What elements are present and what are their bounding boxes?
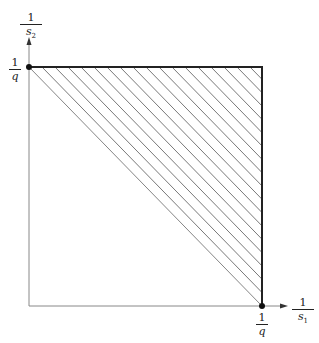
hatched-region — [42, 67, 319, 313]
y-tick-label: 1 q — [9, 57, 21, 82]
x-tick-label: 1 q — [256, 312, 268, 337]
top-left-point — [26, 64, 32, 70]
y-axis-label: 1 s2 — [20, 12, 42, 40]
x-axis-label: 1 s1 — [292, 297, 314, 325]
x-axis-arrow-icon — [280, 304, 288, 309]
diagram-canvas — [0, 0, 319, 343]
bottom-right-point — [259, 303, 265, 309]
diagonal-line — [29, 67, 262, 306]
